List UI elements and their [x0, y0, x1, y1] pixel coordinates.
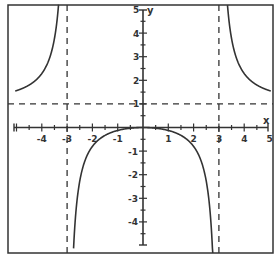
y-tick-label: -4 [128, 217, 138, 227]
function-graph: -4-3-2-11234554321-1-2-3-4 x y [0, 0, 278, 258]
x-tick-label: 3 [216, 134, 222, 144]
x-tick-label: 1 [165, 134, 171, 144]
x-tick-label: 2 [191, 134, 197, 144]
y-tick-label: 3 [133, 52, 139, 62]
asymptote-lines [8, 5, 273, 253]
x-tick-label: 4 [241, 134, 247, 144]
y-tick-label: -2 [128, 170, 138, 180]
y-tick-label: 4 [133, 29, 139, 39]
y-tick-label: -3 [128, 194, 138, 204]
right-branch-curve [227, 5, 270, 91]
x-axis-label: x [263, 115, 270, 126]
y-axis-label: y [147, 5, 154, 16]
x-tick-label: -1 [113, 134, 123, 144]
y-tick-label: 5 [133, 5, 139, 15]
plot-frame [8, 5, 273, 253]
tick-labels: -4-3-2-11234554321-1-2-3-4 [37, 5, 273, 227]
left-branch-curve [15, 5, 58, 91]
y-tick-label: 1 [133, 99, 139, 109]
y-tick-label: -1 [128, 147, 138, 157]
x-tick-label: 5 [267, 134, 273, 144]
x-tick-label: -4 [37, 134, 47, 144]
x-tick-label: -3 [62, 134, 72, 144]
y-tick-label: 2 [133, 76, 139, 86]
